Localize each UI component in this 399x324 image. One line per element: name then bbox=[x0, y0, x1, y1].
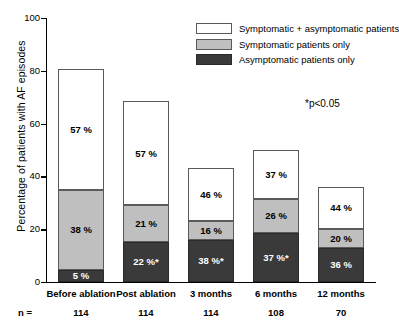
segment-label-asymptomatic-1: 5 % bbox=[73, 271, 89, 281]
segment-symptomatic-3: 16 % bbox=[188, 221, 234, 239]
y-tick-80 bbox=[41, 71, 46, 72]
segment-label-asymptomatic-5: 36 % bbox=[330, 260, 352, 270]
sample-size-12-months: 70 bbox=[296, 307, 386, 318]
segment-symptomatic-plus-asymptomatic-4: 37 % bbox=[253, 150, 299, 199]
segment-symptomatic-plus-asymptomatic-5: 44 % bbox=[318, 187, 364, 229]
segment-symptomatic-2: 21 % bbox=[123, 205, 169, 242]
y-tick-label-80: 80 bbox=[18, 65, 40, 76]
y-tick-label-60: 60 bbox=[18, 118, 40, 129]
segment-asymptomatic-1: 5 % bbox=[58, 270, 104, 282]
y-tick-label-20: 20 bbox=[18, 223, 40, 234]
legend-swatch-dark-icon bbox=[196, 54, 232, 65]
y-tick-100 bbox=[41, 18, 46, 19]
segment-label-symptomatic-plus-asymptomatic-3: 46 % bbox=[200, 190, 222, 200]
legend-item-symptomatic-plus-asymptomatic: Symptomatic + asymptomatic patients bbox=[196, 22, 399, 35]
significance-annotation: *p<0.05 bbox=[305, 98, 340, 109]
segment-symptomatic-plus-asymptomatic-3: 46 % bbox=[188, 168, 234, 221]
y-tick-0 bbox=[41, 282, 46, 283]
segment-symptomatic-plus-asymptomatic-1: 57 % bbox=[58, 69, 104, 189]
segment-symptomatic-1: 38 % bbox=[58, 190, 104, 271]
x-label-12-months: 12 months bbox=[296, 288, 386, 299]
segment-label-asymptomatic-4: 37 %* bbox=[263, 253, 288, 263]
segment-asymptomatic-4: 37 %* bbox=[253, 233, 299, 282]
y-tick-40 bbox=[41, 176, 46, 177]
segment-symptomatic-4: 26 % bbox=[253, 199, 299, 233]
legend-label-symptomatic-plus-asymptomatic: Symptomatic + asymptomatic patients bbox=[239, 23, 399, 34]
segment-label-symptomatic-plus-asymptomatic-4: 37 % bbox=[265, 170, 287, 180]
segment-asymptomatic-3: 38 %* bbox=[188, 240, 234, 282]
y-tick-20 bbox=[41, 229, 46, 230]
y-tick-label-0: 0 bbox=[18, 276, 40, 287]
segment-label-symptomatic-5: 20 % bbox=[330, 234, 352, 244]
y-tick-label-40: 40 bbox=[18, 170, 40, 181]
segment-symptomatic-5: 20 % bbox=[318, 229, 364, 247]
legend-item-symptomatic-only: Symptomatic patients only bbox=[196, 38, 399, 51]
legend-swatch-white-icon bbox=[196, 23, 232, 34]
legend: Symptomatic + asymptomatic patients Symp… bbox=[196, 22, 399, 69]
sample-size-prefix: n = bbox=[18, 307, 32, 318]
y-axis-line bbox=[46, 18, 47, 283]
legend-label-symptomatic-only: Symptomatic patients only bbox=[239, 39, 350, 50]
segment-label-symptomatic-plus-asymptomatic-2: 57 % bbox=[135, 149, 157, 159]
segment-asymptomatic-5: 36 % bbox=[318, 248, 364, 282]
legend-label-asymptomatic-only: Asymptomatic patients only bbox=[239, 54, 355, 65]
segment-label-symptomatic-plus-asymptomatic-1: 57 % bbox=[70, 125, 92, 135]
y-tick-60 bbox=[41, 124, 46, 125]
segment-label-symptomatic-3: 16 % bbox=[200, 226, 222, 236]
segment-asymptomatic-2: 22 %* bbox=[123, 242, 169, 282]
y-tick-label-100: 100 bbox=[18, 12, 40, 23]
x-axis-line bbox=[46, 282, 376, 283]
segment-symptomatic-plus-asymptomatic-2: 57 % bbox=[123, 101, 169, 205]
segment-label-symptomatic-2: 21 % bbox=[135, 219, 157, 229]
segment-label-symptomatic-4: 26 % bbox=[265, 211, 287, 221]
legend-item-asymptomatic-only: Asymptomatic patients only bbox=[196, 53, 399, 66]
segment-label-asymptomatic-2: 22 %* bbox=[133, 257, 158, 267]
legend-swatch-gray-icon bbox=[196, 39, 232, 50]
segment-label-asymptomatic-3: 38 %* bbox=[198, 256, 223, 266]
segment-label-symptomatic-plus-asymptomatic-5: 44 % bbox=[330, 203, 352, 213]
segment-label-symptomatic-1: 38 % bbox=[70, 225, 92, 235]
